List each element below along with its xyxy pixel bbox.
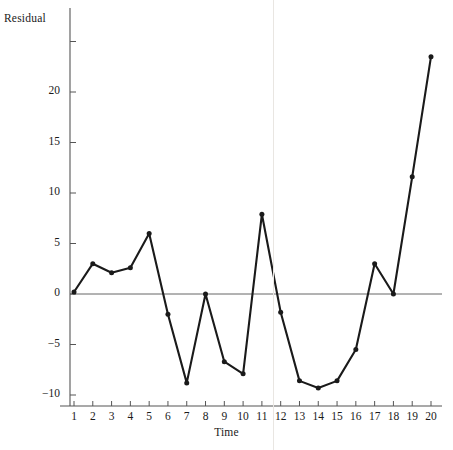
y-tick-label: 0 bbox=[26, 286, 60, 298]
data-point bbox=[391, 292, 396, 297]
x-tick-label: 2 bbox=[83, 410, 103, 422]
x-tick-label: 19 bbox=[402, 410, 422, 422]
data-point bbox=[222, 359, 227, 364]
x-tick-label: 7 bbox=[177, 410, 197, 422]
x-tick-label: 14 bbox=[308, 410, 328, 422]
y-tick-label: 20 bbox=[26, 84, 60, 96]
data-point bbox=[259, 212, 264, 217]
x-tick-label: 13 bbox=[289, 410, 309, 422]
x-tick-label: 18 bbox=[383, 410, 403, 422]
residual-line-plot bbox=[0, 0, 453, 450]
residual-series-line bbox=[74, 57, 431, 388]
x-tick-label: 4 bbox=[120, 410, 140, 422]
data-point bbox=[429, 54, 434, 59]
x-tick-label: 15 bbox=[327, 410, 347, 422]
tick-marks bbox=[70, 42, 431, 407]
y-tick-label: −10 bbox=[26, 387, 60, 399]
x-tick-label: 1 bbox=[64, 410, 84, 422]
scan-artifact-line bbox=[273, 0, 274, 450]
data-point bbox=[316, 385, 321, 390]
data-point bbox=[184, 380, 189, 385]
x-tick-label: 8 bbox=[196, 410, 216, 422]
data-point bbox=[109, 270, 114, 275]
data-markers bbox=[72, 54, 434, 390]
data-point bbox=[241, 371, 246, 376]
data-point bbox=[410, 174, 415, 179]
data-point bbox=[278, 310, 283, 315]
x-tick-label: 12 bbox=[271, 410, 291, 422]
y-tick-label: 5 bbox=[26, 236, 60, 248]
x-tick-label: 20 bbox=[421, 410, 441, 422]
data-point bbox=[372, 261, 377, 266]
x-tick-label: 11 bbox=[252, 410, 272, 422]
data-point bbox=[147, 231, 152, 236]
y-tick-label: −5 bbox=[26, 337, 60, 349]
x-tick-label: 5 bbox=[139, 410, 159, 422]
x-tick-label: 17 bbox=[365, 410, 385, 422]
y-tick-label: 10 bbox=[26, 185, 60, 197]
x-tick-label: 16 bbox=[346, 410, 366, 422]
data-line bbox=[74, 57, 431, 388]
data-point bbox=[353, 347, 358, 352]
data-point bbox=[72, 289, 77, 294]
x-tick-label: 6 bbox=[158, 410, 178, 422]
y-tick-label: 15 bbox=[26, 135, 60, 147]
data-point bbox=[297, 378, 302, 383]
data-point bbox=[335, 378, 340, 383]
x-tick-label: 9 bbox=[214, 410, 234, 422]
data-point bbox=[90, 261, 95, 266]
data-point bbox=[128, 265, 133, 270]
chart-figure: Residual Time 20151050−5−10 123456789101… bbox=[0, 0, 453, 450]
axis-lines bbox=[60, 8, 442, 406]
x-tick-label: 3 bbox=[102, 410, 122, 422]
data-point bbox=[203, 292, 208, 297]
data-point bbox=[165, 312, 170, 317]
x-tick-label: 10 bbox=[233, 410, 253, 422]
